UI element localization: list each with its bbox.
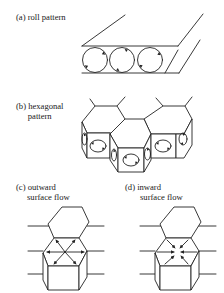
slab-back-left-edge bbox=[82, 15, 125, 46]
slab-right-bottom-edge bbox=[179, 40, 200, 73]
roll-pattern-diagram bbox=[82, 14, 203, 73]
circulating-roll-icon bbox=[110, 48, 135, 73]
slab-front-diagonal bbox=[165, 50, 178, 73]
convection-diagram bbox=[0, 0, 224, 293]
circulating-roll-icon bbox=[83, 48, 108, 73]
inward-flow-diagram bbox=[140, 207, 216, 290]
outward-flow-diagram bbox=[28, 207, 104, 290]
circulating-roll-icon bbox=[138, 48, 163, 73]
hexagonal-cell-icon bbox=[144, 106, 192, 134]
hexagonal-pattern-diagram bbox=[82, 97, 192, 172]
